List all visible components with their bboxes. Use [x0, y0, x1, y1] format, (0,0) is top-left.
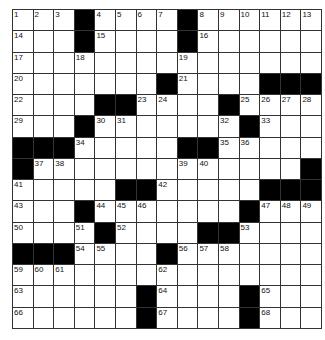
grid-cell[interactable] — [137, 74, 157, 94]
grid-cell[interactable] — [34, 53, 54, 73]
grid-cell[interactable]: 26 — [260, 95, 280, 115]
grid-cell[interactable] — [116, 31, 136, 51]
grid-cell[interactable] — [137, 159, 157, 179]
grid-cell[interactable]: 61 — [54, 265, 74, 285]
grid-cell[interactable] — [198, 116, 218, 136]
grid-cell[interactable] — [34, 95, 54, 115]
grid-cell[interactable] — [178, 180, 198, 200]
grid-cell[interactable] — [198, 53, 218, 73]
grid-cell[interactable]: 38 — [54, 159, 74, 179]
grid-cell[interactable] — [116, 159, 136, 179]
grid-cell[interactable] — [219, 31, 239, 51]
grid-cell[interactable] — [178, 265, 198, 285]
grid-cell[interactable]: 33 — [260, 116, 280, 136]
grid-cell[interactable]: 64 — [157, 286, 177, 306]
grid-cell[interactable] — [198, 74, 218, 94]
grid-cell[interactable] — [34, 31, 54, 51]
grid-cell[interactable] — [34, 201, 54, 221]
grid-cell[interactable]: 8 — [198, 10, 218, 30]
grid-cell[interactable]: 66 — [13, 308, 33, 328]
grid-cell[interactable] — [95, 53, 115, 73]
grid-cell[interactable] — [281, 116, 301, 136]
grid-cell[interactable] — [260, 223, 280, 243]
grid-cell[interactable] — [198, 95, 218, 115]
grid-cell[interactable]: 9 — [219, 10, 239, 30]
grid-cell[interactable] — [157, 116, 177, 136]
grid-cell[interactable] — [281, 138, 301, 158]
grid-cell[interactable] — [116, 244, 136, 264]
grid-cell[interactable]: 59 — [13, 265, 33, 285]
grid-cell[interactable]: 24 — [157, 95, 177, 115]
grid-cell[interactable]: 62 — [157, 265, 177, 285]
grid-cell[interactable] — [116, 265, 136, 285]
grid-cell[interactable]: 19 — [178, 53, 198, 73]
grid-cell[interactable] — [137, 265, 157, 285]
grid-cell[interactable] — [54, 74, 74, 94]
grid-cell[interactable]: 49 — [301, 201, 321, 221]
grid-cell[interactable] — [157, 53, 177, 73]
grid-cell[interactable] — [301, 53, 321, 73]
grid-cell[interactable] — [219, 308, 239, 328]
grid-cell[interactable]: 56 — [178, 244, 198, 264]
grid-cell[interactable] — [178, 116, 198, 136]
grid-cell[interactable] — [240, 265, 260, 285]
grid-cell[interactable] — [34, 180, 54, 200]
grid-cell[interactable] — [219, 159, 239, 179]
grid-cell[interactable] — [240, 31, 260, 51]
grid-cell[interactable] — [240, 74, 260, 94]
grid-cell[interactable]: 68 — [260, 308, 280, 328]
grid-cell[interactable]: 3 — [54, 10, 74, 30]
grid-cell[interactable] — [34, 74, 54, 94]
grid-cell[interactable]: 54 — [75, 244, 95, 264]
grid-cell[interactable]: 50 — [13, 223, 33, 243]
grid-cell[interactable] — [54, 180, 74, 200]
grid-cell[interactable] — [116, 53, 136, 73]
grid-cell[interactable]: 63 — [13, 286, 33, 306]
grid-cell[interactable] — [281, 244, 301, 264]
grid-cell[interactable]: 2 — [34, 10, 54, 30]
grid-cell[interactable]: 35 — [219, 138, 239, 158]
grid-cell[interactable]: 55 — [95, 244, 115, 264]
grid-cell[interactable] — [137, 31, 157, 51]
grid-cell[interactable]: 39 — [178, 159, 198, 179]
grid-cell[interactable] — [137, 53, 157, 73]
grid-cell[interactable] — [54, 223, 74, 243]
grid-cell[interactable] — [34, 286, 54, 306]
grid-cell[interactable]: 4 — [95, 10, 115, 30]
grid-cell[interactable]: 44 — [95, 201, 115, 221]
grid-cell[interactable] — [219, 265, 239, 285]
grid-cell[interactable] — [281, 223, 301, 243]
grid-cell[interactable] — [281, 286, 301, 306]
grid-cell[interactable] — [116, 74, 136, 94]
grid-cell[interactable] — [116, 138, 136, 158]
grid-cell[interactable] — [219, 201, 239, 221]
grid-cell[interactable] — [137, 116, 157, 136]
grid-cell[interactable]: 57 — [198, 244, 218, 264]
grid-cell[interactable] — [240, 159, 260, 179]
grid-cell[interactable] — [198, 201, 218, 221]
grid-cell[interactable]: 43 — [13, 201, 33, 221]
grid-cell[interactable] — [95, 308, 115, 328]
grid-cell[interactable] — [54, 95, 74, 115]
grid-cell[interactable]: 51 — [75, 223, 95, 243]
grid-cell[interactable] — [137, 244, 157, 264]
grid-cell[interactable] — [301, 244, 321, 264]
grid-cell[interactable]: 52 — [116, 223, 136, 243]
grid-cell[interactable] — [178, 308, 198, 328]
grid-cell[interactable] — [219, 180, 239, 200]
grid-cell[interactable] — [157, 159, 177, 179]
grid-cell[interactable] — [260, 244, 280, 264]
grid-cell[interactable] — [281, 53, 301, 73]
grid-cell[interactable]: 30 — [95, 116, 115, 136]
grid-cell[interactable] — [240, 244, 260, 264]
grid-cell[interactable] — [54, 116, 74, 136]
grid-cell[interactable] — [281, 31, 301, 51]
grid-cell[interactable] — [95, 265, 115, 285]
grid-cell[interactable]: 16 — [198, 31, 218, 51]
grid-cell[interactable] — [75, 180, 95, 200]
grid-cell[interactable] — [260, 31, 280, 51]
grid-cell[interactable] — [95, 159, 115, 179]
grid-cell[interactable] — [301, 286, 321, 306]
grid-cell[interactable] — [219, 74, 239, 94]
grid-cell[interactable] — [95, 138, 115, 158]
